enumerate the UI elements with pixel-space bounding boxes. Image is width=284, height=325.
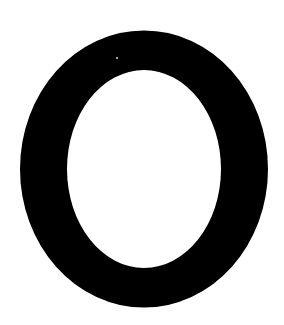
letter-o-glyph xyxy=(0,0,284,325)
white-speck xyxy=(116,57,118,59)
glyph-canvas: O xyxy=(0,0,284,325)
letter-o-ring xyxy=(20,30,268,307)
